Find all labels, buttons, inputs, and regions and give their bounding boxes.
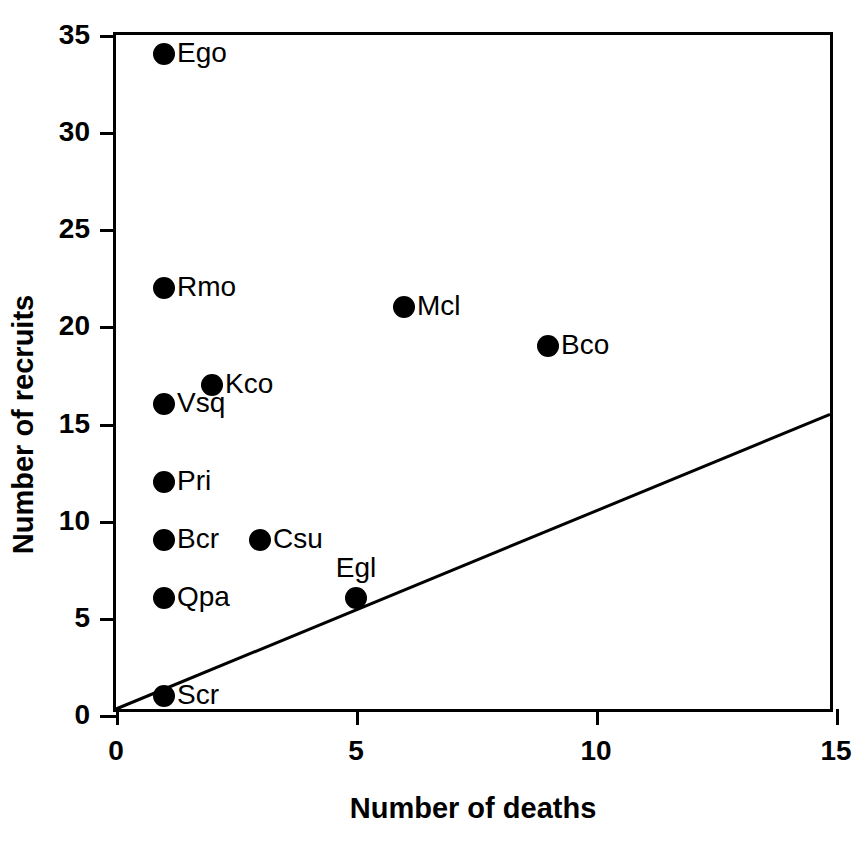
data-point-label-mcl: Mcl: [417, 292, 461, 320]
x-tick-10: [596, 709, 599, 725]
data-point-qpa: [153, 587, 175, 609]
data-point-bcr: [153, 529, 175, 551]
y-tick-label-25: 25: [59, 213, 90, 245]
data-point-mcl: [393, 296, 415, 318]
1:1-replacement-line: [116, 414, 830, 709]
data-point-vsq: [153, 393, 175, 415]
y-tick-label-15: 15: [59, 408, 90, 440]
data-point-label-rmo: Rmo: [177, 273, 236, 301]
data-point-scr: [153, 685, 175, 707]
y-axis-title: Number of recruits: [0, 0, 46, 849]
y-tick-label-20: 20: [59, 310, 90, 342]
data-point-label-ego: Ego: [177, 40, 227, 68]
y-tick-label-0: 0: [74, 699, 90, 731]
scatter-chart-figure: Number of recruits Number of deaths 0510…: [0, 0, 853, 849]
y-tick-5: [100, 618, 116, 621]
y-tick-0: [100, 715, 116, 718]
y-tick-label-5: 5: [74, 602, 90, 634]
y-tick-15: [100, 424, 116, 427]
x-tick-label-15: 15: [820, 735, 851, 767]
y-tick-25: [100, 229, 116, 232]
data-point-label-scr: Scr: [177, 681, 219, 709]
x-tick-label-0: 0: [108, 735, 124, 767]
data-point-csu: [249, 529, 271, 551]
y-tick-label-10: 10: [59, 505, 90, 537]
y-tick-label-35: 35: [59, 19, 90, 51]
data-point-label-kco: Kco: [225, 370, 273, 398]
x-tick-label-5: 5: [348, 735, 364, 767]
x-tick-15: [836, 709, 839, 725]
data-point-ego: [153, 43, 175, 65]
y-tick-20: [100, 326, 116, 329]
y-tick-label-30: 30: [59, 116, 90, 148]
y-tick-30: [100, 132, 116, 135]
data-point-egl: [345, 587, 367, 609]
data-point-pri: [153, 471, 175, 493]
data-point-label-pri: Pri: [177, 467, 211, 495]
data-point-bco: [537, 335, 559, 357]
plot-area: 05101520253035 051015 EgoRmoMclBcoKcoVsq…: [113, 32, 833, 712]
data-point-label-qpa: Qpa: [177, 584, 230, 612]
x-tick-5: [356, 709, 359, 725]
data-point-rmo: [153, 277, 175, 299]
data-point-label-vsq: Vsq: [177, 390, 225, 418]
x-tick-0: [116, 709, 119, 725]
data-point-label-bco: Bco: [561, 331, 609, 359]
y-tick-35: [100, 35, 116, 38]
y-tick-10: [100, 521, 116, 524]
x-tick-label-10: 10: [580, 735, 611, 767]
x-axis-title: Number of deaths: [113, 792, 833, 825]
data-point-label-egl: Egl: [336, 554, 376, 582]
plot-inner: 05101520253035 051015 EgoRmoMclBcoKcoVsq…: [116, 35, 830, 709]
data-point-label-bcr: Bcr: [177, 526, 219, 554]
data-point-label-csu: Csu: [273, 526, 323, 554]
